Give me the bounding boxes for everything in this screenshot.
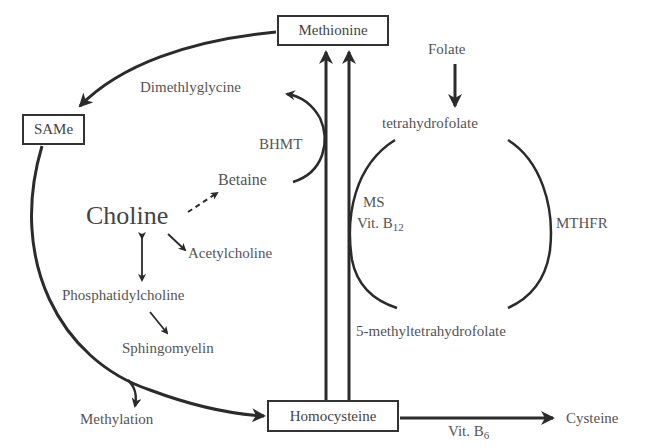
mthfr-label: MTHFR bbox=[556, 216, 608, 231]
homocysteine-box: Homocysteine bbox=[267, 400, 399, 432]
vitb6-label: Vit. B6 bbox=[448, 424, 489, 441]
sphingomyelin-label: Sphingomyelin bbox=[122, 341, 214, 356]
methyltetrahydrofolate-label: 5-methyltetrahydrofolate bbox=[356, 324, 506, 339]
acetylcholine-label: Acetylcholine bbox=[188, 246, 272, 261]
tetrahydrofolate-label: tetrahydrofolate bbox=[382, 116, 478, 131]
vitb12-subscript: 12 bbox=[393, 221, 404, 233]
phosphatidylcholine-label: Phosphatidylcholine bbox=[62, 288, 185, 303]
vitb12-prefix: Vit. B bbox=[357, 215, 393, 231]
dimethylglycine-label: Dimethlyglycine bbox=[140, 80, 241, 95]
vitb6-subscript: 6 bbox=[484, 429, 490, 441]
bhmt-label: BHMT bbox=[259, 137, 302, 152]
methylation-label: Methylation bbox=[80, 412, 153, 427]
same-box: SAMe bbox=[22, 114, 85, 145]
choline-label: Choline bbox=[86, 203, 168, 229]
choline-to-acetylcholine-arrow bbox=[168, 234, 185, 250]
methionine-box: Methionine bbox=[277, 15, 389, 46]
same-label: SAMe bbox=[34, 121, 73, 138]
cysteine-label: Cysteine bbox=[566, 411, 619, 426]
ms-label: MS bbox=[363, 195, 385, 210]
betaine-label: Betaine bbox=[218, 172, 267, 188]
vitb12-label: Vit. B12 bbox=[357, 216, 404, 233]
homocysteine-label: Homocysteine bbox=[290, 408, 377, 425]
choline-to-betaine-arrow bbox=[188, 193, 217, 212]
folate-label: Folate bbox=[428, 42, 466, 57]
pc-to-sphingomyelin-arrow bbox=[150, 312, 167, 333]
vitb6-prefix: Vit. B bbox=[448, 423, 484, 439]
mthfr-arc bbox=[508, 140, 551, 308]
methionine-label: Methionine bbox=[298, 22, 367, 39]
